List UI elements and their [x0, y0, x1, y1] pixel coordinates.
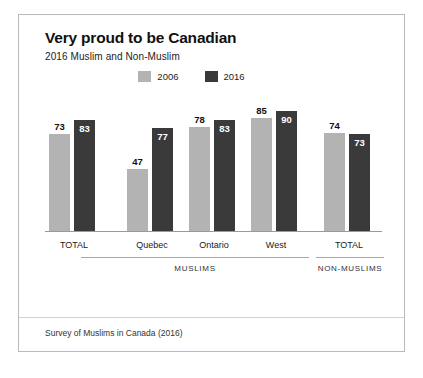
bar-wrap: 77 — [152, 128, 173, 232]
bar-wrap: 85 — [251, 118, 272, 232]
bar-wrap: 83 — [214, 120, 235, 232]
bar-wrap: 47 — [127, 169, 148, 232]
bar-group-nonmuslims-total: 74 73 — [324, 133, 370, 232]
bar-2016 — [152, 128, 173, 232]
bar-group-muslims-quebec: 47 77 — [127, 128, 173, 232]
legend-label-2006: 2006 — [157, 71, 178, 82]
legend-label-2016: 2016 — [224, 71, 245, 82]
figure-card: Very proud to be Canadian 2016 Muslim an… — [18, 14, 405, 352]
bar-wrap: 90 — [276, 111, 297, 232]
chart-legend: 2006 2016 — [19, 71, 404, 82]
legend-swatch-2006 — [138, 71, 151, 82]
bar-group-muslims-ontario: 78 83 — [189, 120, 235, 232]
bar-wrap: 83 — [74, 120, 95, 232]
tick-label-ontario: Ontario — [183, 240, 245, 250]
bar-2016 — [74, 120, 95, 232]
chart-title: Very proud to be Canadian — [45, 29, 404, 46]
bar-wrap: 74 — [324, 133, 345, 232]
bar-value: 73 — [349, 138, 370, 148]
bracket-rule-nonmuslims — [316, 257, 384, 258]
bar-2006 — [251, 118, 272, 232]
tick-label-quebec: Quebec — [121, 240, 183, 250]
bracket-label-nonmuslims: NON-MUSLIMS — [311, 264, 389, 273]
bar-2006 — [49, 134, 70, 232]
bracket-label-muslims: MUSLIMS — [81, 264, 309, 273]
tick-labels: TOTAL Quebec Ontario West TOTAL — [19, 237, 404, 255]
bar-2006 — [189, 127, 210, 232]
bar-value: 83 — [214, 124, 235, 134]
bar-2016 — [349, 134, 370, 232]
legend-entry-2006: 2006 — [138, 71, 178, 82]
legend-swatch-2016 — [205, 71, 218, 82]
bar-wrap: 78 — [189, 127, 210, 232]
bar-group-muslims-west: 85 90 — [251, 111, 297, 232]
chart-subtitle: 2016 Muslim and Non-Muslim — [45, 51, 404, 62]
bar-2006 — [324, 133, 345, 232]
bar-group-muslims-total: 73 83 — [49, 120, 95, 232]
legend-entry-2016: 2016 — [205, 71, 245, 82]
bar-value: 85 — [251, 106, 272, 116]
bar-2016 — [214, 120, 235, 232]
bar-wrap: 73 — [49, 134, 70, 232]
bar-value: 78 — [189, 115, 210, 125]
axis-baseline — [45, 231, 382, 232]
bar-value: 74 — [324, 121, 345, 131]
bar-2016 — [276, 111, 297, 232]
bar-wrap: 73 — [349, 134, 370, 232]
source-note: Survey of Muslims in Canada (2016) — [45, 328, 182, 338]
source-divider — [19, 317, 404, 318]
chart-header: Very proud to be Canadian 2016 Muslim an… — [19, 15, 404, 62]
bar-value: 83 — [74, 124, 95, 134]
bar-value: 47 — [127, 157, 148, 167]
bar-2006 — [127, 169, 148, 232]
tick-label-total-muslims: TOTAL — [43, 240, 105, 250]
bar-value: 73 — [49, 122, 70, 132]
tick-label-total-nonmuslims: TOTAL — [318, 240, 380, 250]
plot-area: 73 83 47 77 78 83 — [19, 90, 404, 232]
group-brackets: MUSLIMS NON-MUSLIMS — [19, 255, 404, 281]
bar-value: 77 — [152, 132, 173, 142]
bracket-rule-muslims — [81, 257, 309, 258]
bar-value: 90 — [276, 115, 297, 125]
tick-label-west: West — [245, 240, 307, 250]
